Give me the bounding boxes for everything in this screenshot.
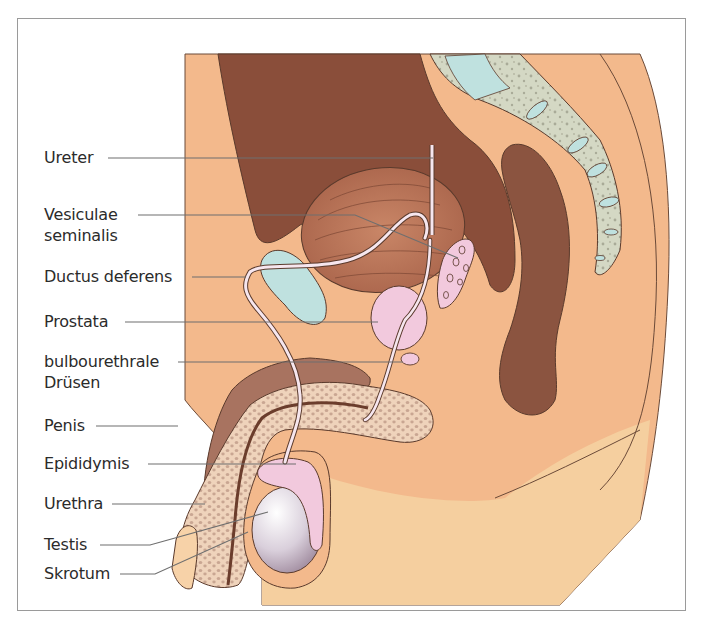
label-bulbourethrale: bulbourethrale bbox=[44, 352, 159, 371]
label-vesiculae: Vesiculae bbox=[44, 205, 118, 224]
label-seminalis: seminalis bbox=[44, 226, 118, 245]
label-urethra: Urethra bbox=[44, 494, 103, 513]
label-epididymis: Epididymis bbox=[44, 454, 129, 473]
label-skrotum: Skrotum bbox=[44, 564, 110, 583]
label-prostata: Prostata bbox=[44, 312, 108, 331]
bulbourethral-gland bbox=[401, 353, 419, 365]
label-drusen: Drüsen bbox=[44, 373, 100, 392]
label-ureter: Ureter bbox=[44, 148, 93, 167]
label-ductus-deferens: Ductus deferens bbox=[44, 267, 172, 286]
label-testis: Testis bbox=[44, 535, 87, 554]
label-penis: Penis bbox=[44, 416, 85, 435]
